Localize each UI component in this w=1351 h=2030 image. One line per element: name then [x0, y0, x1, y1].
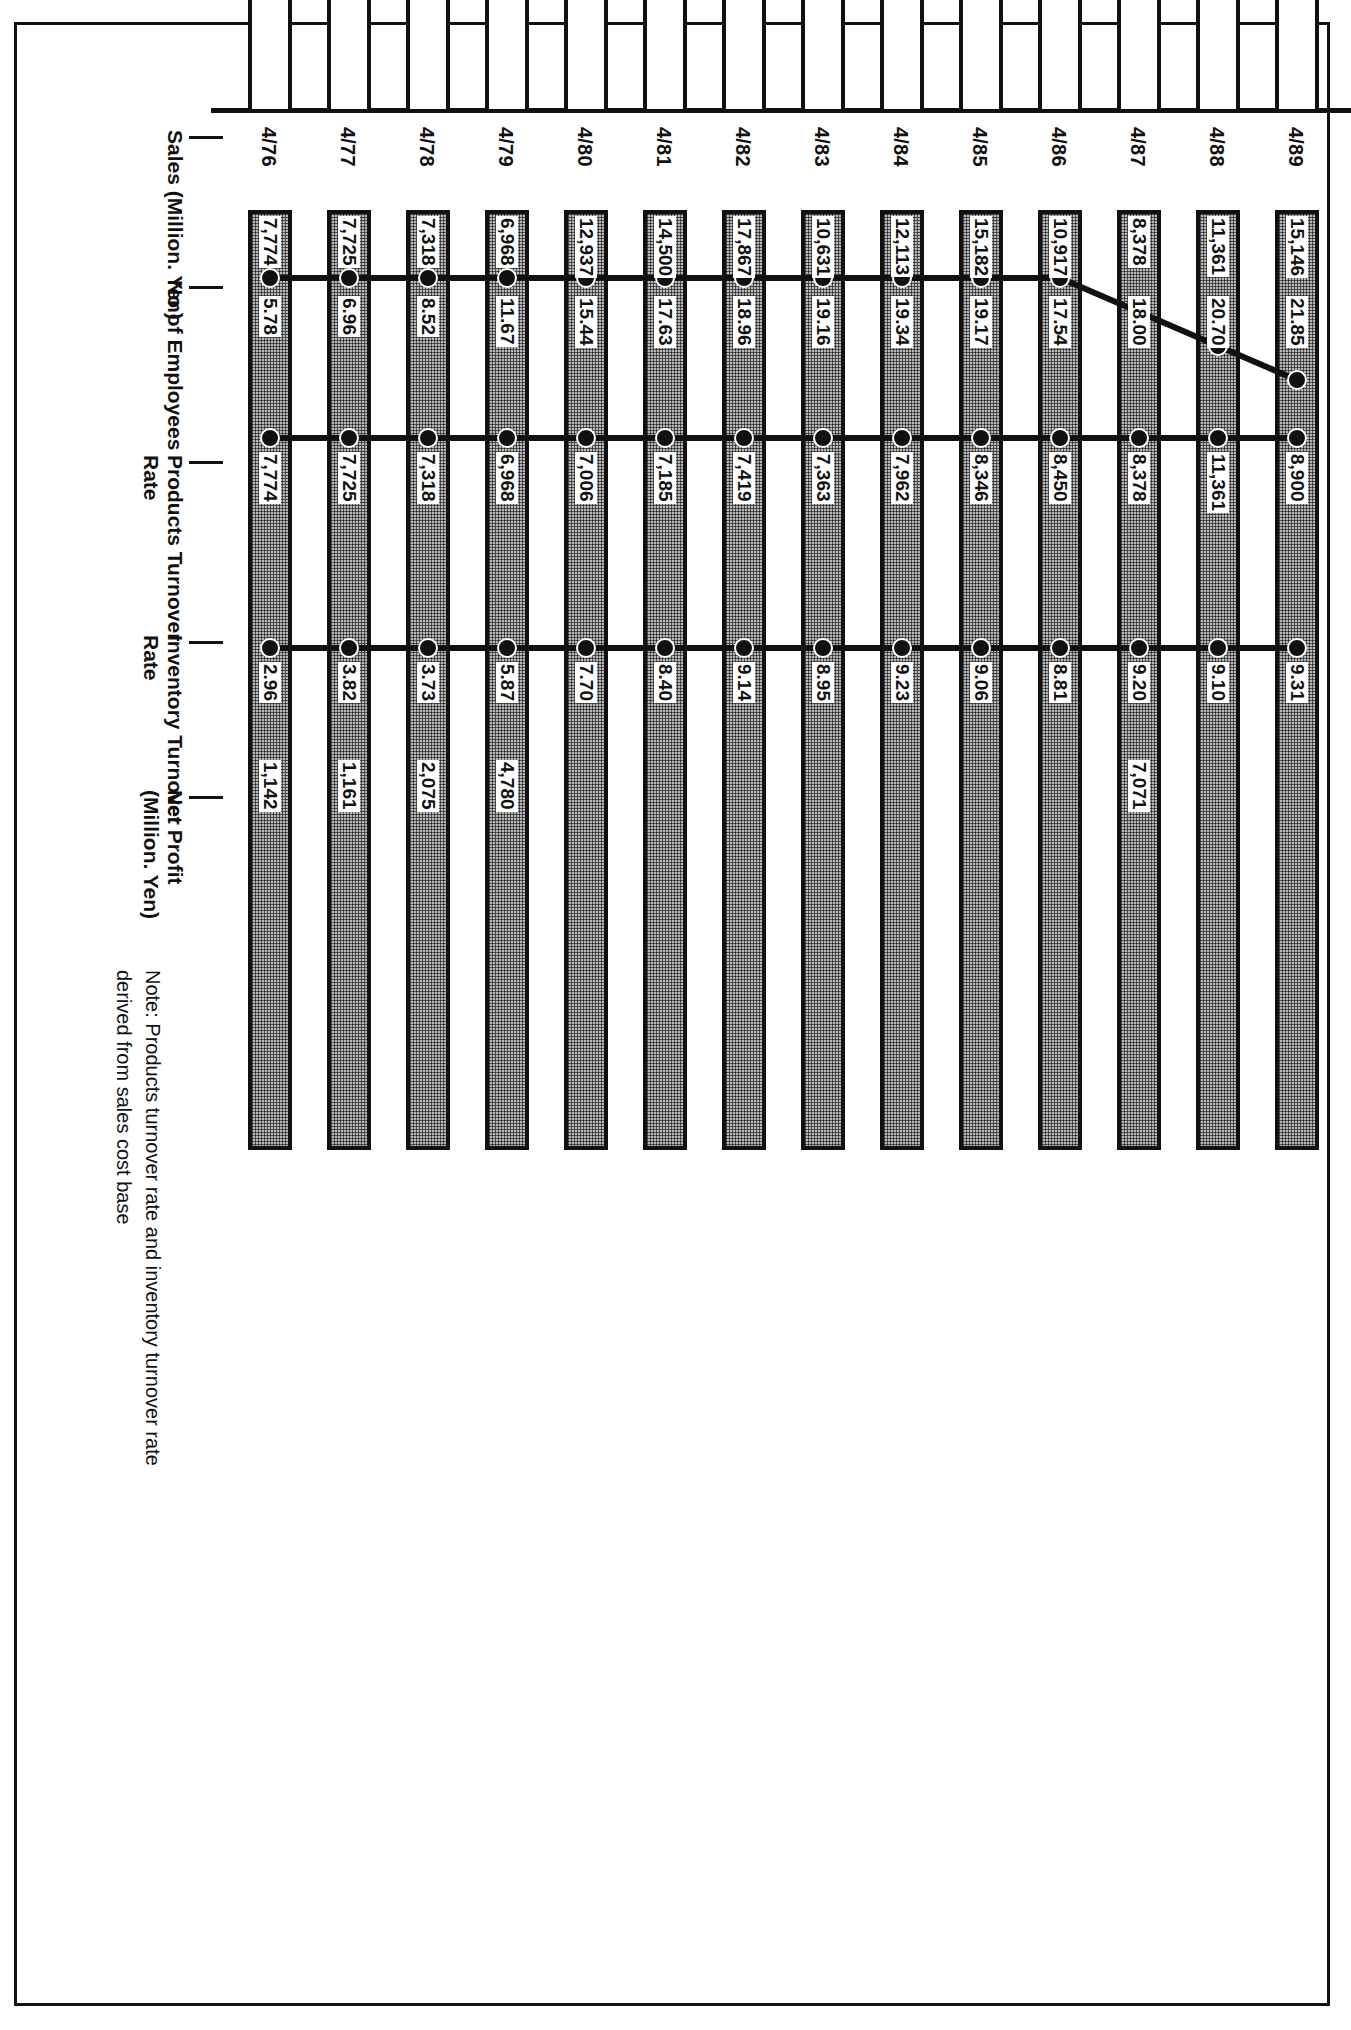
products-turnover-value-label: 19.17: [970, 296, 992, 348]
year-axis-label: 4/85: [968, 127, 991, 167]
sales-bar: [406, 0, 450, 113]
employees-value-label: 15,182: [970, 216, 992, 278]
year-axis-label: 4/83: [810, 127, 833, 167]
year-axis-label: 4/79: [494, 127, 517, 167]
sales-bar: [1196, 0, 1240, 113]
inventory-turnover-value-label: 7,419: [733, 452, 755, 504]
category-group: 237,83615,18219.178,3469.064/85: [941, 0, 1017, 1200]
products-turnover-value-label: 19.34: [891, 296, 913, 348]
products-turnover-value-label: 15.44: [575, 296, 597, 348]
legend-products-turnover-leader: [189, 461, 223, 464]
inventory-turnover-value-label: 7,318: [417, 452, 439, 504]
category-group: 246,2438,37818.008,3789.207,0714/87: [1099, 0, 1175, 1200]
products-turnover-value-label: 18.96: [733, 296, 755, 348]
inventory-rate-value-label: 3.73: [417, 662, 439, 703]
inventory-rate-value-label: 9.10: [1207, 662, 1229, 703]
inventory-rate-value-label: 9.31: [1286, 662, 1308, 703]
inventory-rate-value-label: 5.87: [496, 662, 518, 703]
sales-bar: [959, 0, 1003, 113]
category-group: 265,22511,36120.7011,3619.104/88: [1178, 0, 1254, 1200]
employees-value-label: 7,774: [259, 216, 281, 268]
employees-value-label: 17,867: [733, 216, 755, 278]
sales-bar: [722, 0, 766, 113]
inventory-turnover-value-label: 7,185: [654, 452, 676, 504]
products-turnover-value-label: 19.16: [812, 296, 834, 348]
products-turnover-value-label: 6.96: [338, 296, 360, 337]
legend-net-profit-leader: [189, 796, 223, 799]
year-axis-label: 4/82: [731, 127, 754, 167]
category-group: 204,30812,11319.347,9629.234/84: [862, 0, 938, 1200]
sales-bar: [801, 0, 845, 113]
inventory-turnover-value-label: 7,725: [338, 452, 360, 504]
products-turnover-value-label: 18.00: [1128, 296, 1150, 348]
products-turnover-value-label: 17.63: [654, 296, 676, 348]
category-group: 185,57510,63119.167,3638.954/83: [783, 0, 859, 1200]
net-profit-value-label: 7,071: [1128, 760, 1150, 812]
legend-employees-leader: [189, 286, 223, 289]
sales-bar: [643, 0, 687, 113]
category-group: 182,87114,50017.637,1858.404/81: [625, 0, 701, 1200]
sales-bar: [1117, 0, 1161, 113]
category-group: 151,3146,96811.676,9685.874,7804/79: [467, 0, 543, 1200]
net-profit-value-label: 4,780: [496, 760, 518, 812]
inventory-rate-value-label: 9.06: [970, 662, 992, 703]
inventory-rate-value-label: 3.82: [338, 662, 360, 703]
net-profit-value-label: 1,142: [259, 760, 281, 812]
inventory-turnover-value-label: 8,346: [970, 452, 992, 504]
chart-page: 301,16315,14621.858,9009.314/89265,22511…: [0, 0, 1351, 2030]
employees-value-label: 15,146: [1286, 216, 1308, 278]
sales-bar: [1038, 0, 1082, 113]
year-axis-label: 4/86: [1047, 127, 1070, 167]
products-turnover-value-label: 21.85: [1286, 296, 1308, 348]
products-turnover-value-label: 17.54: [1049, 296, 1071, 348]
inventory-rate-value-label: 9.14: [733, 662, 755, 703]
sales-bar: [327, 0, 371, 113]
employees-value-label: 7,725: [338, 216, 360, 268]
chart-plot-area: 301,16315,14621.858,9009.314/89265,22511…: [31, 0, 1351, 1980]
inventory-turnover-value-label: 6,968: [496, 452, 518, 504]
year-axis-label: 4/88: [1205, 127, 1228, 167]
inventory-rate-value-label: 9.20: [1128, 662, 1150, 703]
sales-bar: [485, 0, 529, 113]
employees-value-label: 6,968: [496, 216, 518, 268]
employees-value-label: 11,361: [1207, 216, 1229, 277]
legend-sales-leader: [189, 136, 223, 139]
category-group: 301,16315,14621.858,9009.314/89: [1257, 0, 1333, 1200]
products-turnover-value-label: 5.78: [259, 296, 281, 337]
inventory-rate-value-label: 7.70: [575, 662, 597, 703]
inventory-turnover-value-label: 8,900: [1286, 452, 1308, 504]
sales-bar: [564, 0, 608, 113]
inventory-rate-value-label: 9.23: [891, 662, 913, 703]
year-axis-label: 4/78: [415, 127, 438, 167]
sales-bar: [1275, 0, 1319, 113]
year-axis-label: 4/80: [573, 127, 596, 167]
inventory-rate-value-label: 8.95: [812, 662, 834, 703]
inventory-turnover-value-label: 7,774: [259, 452, 281, 504]
inventory-rate-value-label: 8.81: [1049, 662, 1071, 703]
sales-bar: [880, 0, 924, 113]
inventory-turnover-value-label: 11,361: [1207, 452, 1229, 513]
products-turnover-value-label: 20.70: [1207, 296, 1229, 348]
rotated-chart-stage: 301,16315,14621.858,9009.314/89265,22511…: [31, 0, 1351, 1980]
category-group: 250,62510,91717.548,4508.814/86: [1020, 0, 1096, 1200]
employees-value-label: 14,500: [654, 216, 676, 278]
employees-value-label: 10,631: [812, 216, 834, 278]
products-turnover-value-label: 11.67: [496, 296, 518, 347]
year-axis-label: 4/84: [889, 127, 912, 167]
inventory-turnover-value-label: 7,006: [575, 452, 597, 504]
inventory-rate-value-label: 8.40: [654, 662, 676, 703]
category-group: 197,27017,86718.967,4199.144/82: [704, 0, 780, 1200]
inventory-rate-value-label: 2.96: [259, 662, 281, 703]
employees-value-label: 7,318: [417, 216, 439, 268]
category-group: 167,71712,93715.447,0067.704/80: [546, 0, 622, 1200]
year-axis-label: 4/81: [652, 127, 675, 167]
sales-bar: [248, 0, 292, 113]
year-axis-label: 4/87: [1126, 127, 1149, 167]
year-axis-label: 4/89: [1284, 127, 1307, 167]
employees-value-label: 12,937: [575, 216, 597, 278]
legend-inventory-turnover-leader: [189, 641, 223, 644]
inventory-turnover-value-label: 7,363: [812, 452, 834, 504]
inventory-turnover-value-label: 8,378: [1128, 452, 1150, 504]
net-profit-value-label: 2,075: [417, 760, 439, 812]
year-axis-label: 4/76: [257, 127, 280, 167]
